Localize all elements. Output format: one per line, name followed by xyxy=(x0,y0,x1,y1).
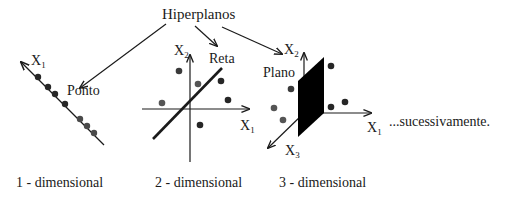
x2-label-2d: X2 xyxy=(174,44,189,60)
x1-label-2d: X1 xyxy=(240,119,255,135)
plano-label: Plano xyxy=(263,66,295,80)
arrow-to-ponto xyxy=(80,24,166,88)
continuation-text: ...sucessivamente. xyxy=(389,115,490,129)
hyperplane-diagram: Hiperplanos X1 Ponto 1 - dimensional X2 … xyxy=(0,0,513,204)
x1-label-1d: X1 xyxy=(31,54,46,70)
panel-1d-graphics xyxy=(21,62,104,145)
separating-plane xyxy=(298,57,324,137)
x3-label-3d: X3 xyxy=(285,144,300,160)
caption-2d: 2 - dimensional xyxy=(155,176,242,190)
x2-label-3d: X2 xyxy=(284,43,299,59)
arrow-to-reta xyxy=(195,26,217,46)
reta-label: Reta xyxy=(209,52,235,66)
diagram-title: Hiperplanos xyxy=(162,7,235,22)
ponto-label: Ponto xyxy=(67,84,100,98)
caption-1d: 1 - dimensional xyxy=(16,176,103,190)
panel-2d-graphics xyxy=(142,55,249,162)
points-2d xyxy=(159,68,232,129)
caption-3d: 3 - dimensional xyxy=(279,176,366,190)
x1-label-3d: X1 xyxy=(367,121,382,137)
diagram-graphics xyxy=(0,0,513,204)
arrow-to-plano xyxy=(222,27,282,54)
